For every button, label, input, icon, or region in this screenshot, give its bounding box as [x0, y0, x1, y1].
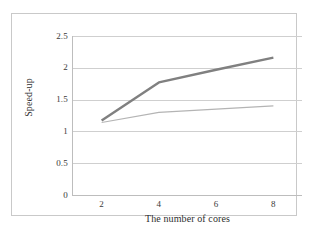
series-lines [73, 36, 302, 195]
y-tick-label: 1 [26, 127, 68, 136]
series-line-series-2 [102, 106, 274, 123]
y-tick-label: 0 [26, 191, 68, 200]
y-tick-label: 2.5 [26, 32, 68, 41]
x-axis-title: The number of cores [73, 213, 302, 224]
x-axis-tick-labels: 2468 [73, 199, 302, 213]
chart-figure: 00.511.522.5 2468 The number of cores Sp… [0, 0, 310, 234]
plot-area [73, 36, 302, 195]
y-tick-label: 0.5 [26, 159, 68, 168]
chart-frame: 00.511.522.5 2468 The number of cores Sp… [11, 13, 297, 216]
x-tick-label: 2 [99, 199, 104, 209]
gridline [73, 195, 302, 196]
x-tick-label: 8 [271, 199, 276, 209]
x-tick-label: 4 [157, 199, 162, 209]
x-tick-label: 6 [214, 199, 219, 209]
y-axis-title: Speed-up [23, 68, 34, 128]
